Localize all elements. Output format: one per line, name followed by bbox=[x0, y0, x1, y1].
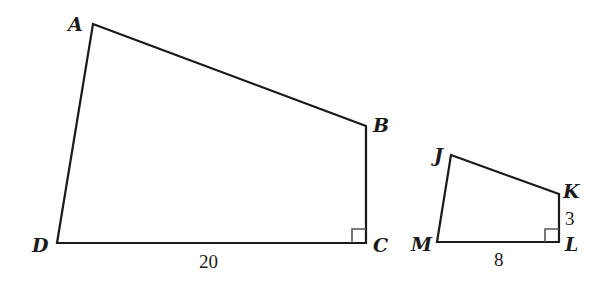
right-angle-marker-L bbox=[545, 229, 559, 242]
vertex-label-D: D bbox=[31, 234, 49, 256]
side-length-ML: 8 bbox=[494, 249, 504, 270]
vertex-label-A: A bbox=[66, 13, 83, 35]
right-angle-marker-C bbox=[352, 229, 366, 243]
vertex-label-C: C bbox=[373, 234, 388, 256]
quadrilateral-JKLM bbox=[437, 155, 559, 242]
quadrilateral-ABCD bbox=[57, 24, 366, 243]
side-length-KL: 3 bbox=[565, 208, 575, 229]
vertex-label-L: L bbox=[564, 233, 578, 255]
similar-quadrilaterals-figure: A B C D 20 J K L M 8 3 bbox=[0, 0, 607, 302]
vertex-label-K: K bbox=[562, 180, 581, 202]
vertex-label-M: M bbox=[410, 233, 433, 255]
vertex-label-J: J bbox=[431, 144, 445, 166]
side-length-DC: 20 bbox=[199, 251, 218, 272]
vertex-label-B: B bbox=[372, 114, 389, 136]
